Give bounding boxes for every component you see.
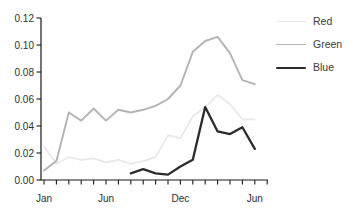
legend-label-blue: Blue — [313, 60, 334, 75]
green-series-line — [44, 37, 255, 171]
legend-label-red: Red — [313, 14, 332, 29]
axis-spines — [41, 18, 268, 180]
red-series-line-swatch — [276, 21, 306, 22]
blue-series-line-swatch — [276, 67, 306, 69]
legend-item-blue: Blue — [276, 60, 342, 75]
y-axis-tick-label: 0.10 — [15, 40, 35, 51]
x-axis-tick-label: Dec — [172, 193, 190, 204]
x-axis-tick-label: Jun — [247, 193, 263, 204]
green-series-line-swatch — [276, 44, 306, 45]
chart-legend: Red Green Blue — [276, 14, 342, 75]
legend-item-red: Red — [276, 14, 342, 29]
legend-label-green: Green — [313, 37, 342, 52]
y-axis-tick-label: 0.04 — [15, 121, 35, 132]
x-axis-tick-label: Jun — [98, 193, 114, 204]
y-axis-tick-label: 0.12 — [15, 13, 35, 24]
line-chart-figure: 0.000.020.040.060.080.100.12JanJunDecJun… — [0, 0, 353, 213]
red-series-line — [44, 95, 255, 164]
y-axis-tick-label: 0.00 — [15, 175, 35, 186]
legend-item-green: Green — [276, 37, 342, 52]
y-axis-tick-label: 0.08 — [15, 67, 35, 78]
y-axis-tick-label: 0.06 — [15, 94, 35, 105]
x-axis-tick-label: Jan — [36, 193, 52, 204]
y-axis-tick-label: 0.02 — [15, 148, 35, 159]
